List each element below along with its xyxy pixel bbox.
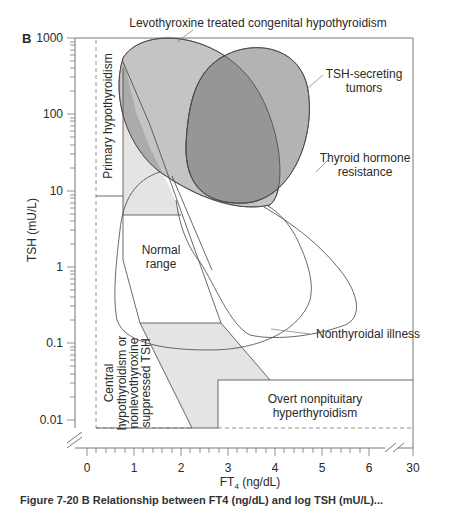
label-primary-hypothyroidism: Primary hypothyroidism bbox=[101, 53, 115, 178]
figure-caption: Figure 7-20 B Relationship between FT4 (… bbox=[20, 494, 383, 506]
svg-text:10: 10 bbox=[50, 184, 64, 198]
label-resistance-1: Thyroid hormone bbox=[320, 151, 411, 165]
svg-text:100: 100 bbox=[43, 107, 63, 121]
svg-text:3: 3 bbox=[225, 461, 232, 475]
y-axis-break bbox=[67, 432, 82, 448]
label-nonthyroidal: Nonthyroidal illness bbox=[316, 327, 420, 341]
svg-text:0.01: 0.01 bbox=[40, 413, 64, 427]
label-resistance-2: resistance bbox=[338, 165, 393, 179]
label-overt-1: Overt nonpituitary bbox=[268, 392, 363, 406]
label-normal-1: Normal bbox=[142, 243, 181, 257]
panel-label: B bbox=[22, 31, 31, 46]
svg-text:0.1: 0.1 bbox=[46, 336, 63, 350]
y-axis-label: TSH (mU/L) bbox=[25, 198, 39, 262]
chart-figure: B bbox=[0, 0, 451, 508]
thyroid-resistance-outline bbox=[176, 200, 356, 338]
label-overt-2: hyperthyroidism bbox=[273, 406, 358, 420]
svg-text:4: 4 bbox=[272, 461, 279, 475]
svg-text:1000: 1000 bbox=[36, 31, 63, 45]
suppressed-tsh-band bbox=[140, 323, 270, 428]
svg-text:Central: Central bbox=[102, 364, 116, 403]
svg-text:6: 6 bbox=[366, 461, 373, 475]
svg-text:0: 0 bbox=[84, 461, 91, 475]
y-axis bbox=[67, 38, 75, 420]
svg-text:suppressed TSH: suppressed TSH bbox=[139, 338, 153, 427]
svg-text:2: 2 bbox=[178, 461, 185, 475]
svg-text:30: 30 bbox=[406, 461, 420, 475]
x-tick-labels: 0 1 2 3 4 5 6 30 bbox=[84, 461, 420, 475]
label-tsh-tumor-1: TSH-secreting bbox=[326, 67, 403, 81]
x-axis bbox=[87, 448, 413, 456]
y-tick-labels: 1000 100 10 1 0.1 0.01 bbox=[36, 31, 63, 427]
label-central: Central hypothyroidism or nonlevothyroxi… bbox=[102, 336, 153, 431]
label-tsh-tumor-2: tumors bbox=[346, 81, 383, 95]
label-normal-2: range bbox=[146, 257, 177, 271]
label-levothyroxine: Levothyroxine treated congenital hypothy… bbox=[129, 16, 386, 30]
svg-text:1: 1 bbox=[131, 461, 138, 475]
svg-text:5: 5 bbox=[319, 461, 326, 475]
leader-tsh-tumor bbox=[308, 75, 323, 88]
chart-svg: B bbox=[0, 0, 451, 508]
svg-text:1: 1 bbox=[56, 260, 63, 274]
x-axis-label: FT4 (ng/dL) bbox=[220, 475, 280, 491]
leader-nonthyroidal bbox=[271, 329, 310, 334]
